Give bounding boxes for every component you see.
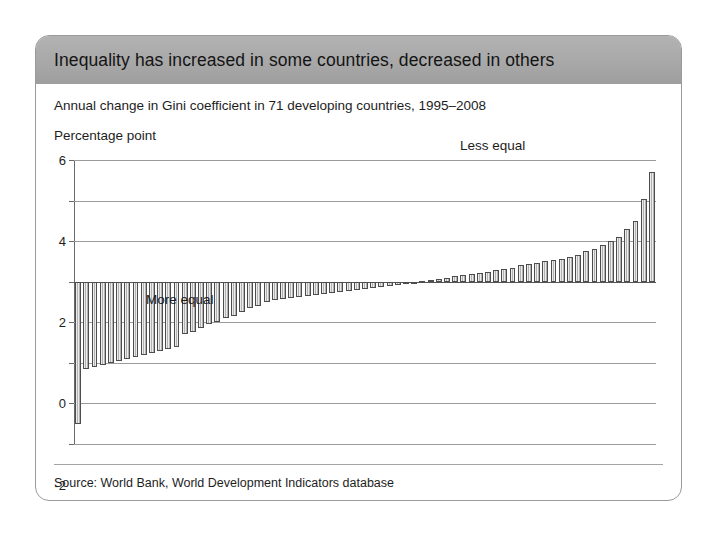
figure-title: Inequality has increased in some countri… [54, 50, 554, 71]
bar [329, 282, 335, 293]
bar [395, 282, 401, 285]
annotation-more-equal: More equal [146, 292, 214, 307]
bar [510, 268, 516, 282]
y-tick-label-4: 4 [59, 234, 66, 249]
bar [419, 281, 425, 283]
bar [567, 257, 573, 281]
bar [75, 282, 81, 424]
bar [575, 255, 581, 281]
bar [231, 282, 237, 316]
y-tick-label-6: 6 [59, 153, 66, 168]
bar [214, 282, 220, 323]
bar [305, 282, 311, 296]
bar [559, 259, 565, 281]
bar [518, 265, 524, 281]
y-tick-label-2: 2 [59, 315, 66, 330]
bar [378, 282, 384, 287]
bar [288, 282, 294, 298]
bar [477, 273, 483, 282]
bar [321, 282, 327, 294]
bar [313, 282, 319, 295]
annotation-less-equal: Less equal [460, 138, 525, 153]
bar [116, 282, 122, 361]
bar [485, 272, 491, 282]
bar [92, 282, 98, 367]
bar [493, 270, 499, 282]
figure-subtitle: Annual change in Gini coefficient in 71 … [54, 98, 486, 113]
bar [469, 274, 475, 282]
source-note: Source: World Bank, World Development In… [54, 476, 394, 490]
y-axis-unit-label: Percentage point [54, 128, 156, 143]
bar [182, 282, 188, 335]
bar [534, 263, 540, 281]
bar [551, 260, 557, 281]
bar [526, 264, 532, 281]
bar [649, 172, 655, 282]
gridline--8: -8 [74, 444, 656, 445]
bar [444, 278, 450, 282]
bar [624, 229, 630, 282]
figure-card: Inequality has increased in some countri… [35, 35, 682, 501]
y-tick-mark--8 [69, 444, 74, 445]
bar [411, 282, 417, 284]
bar [239, 282, 245, 312]
bar [592, 249, 598, 281]
bar [100, 282, 106, 365]
bar [362, 282, 368, 289]
bar [346, 282, 352, 291]
bar [403, 282, 409, 284]
bar [108, 282, 114, 363]
bar [460, 275, 466, 282]
bar [501, 269, 507, 282]
bar [633, 221, 639, 282]
y-tick-label-0: 0 [59, 396, 66, 411]
bar [428, 280, 434, 282]
bar [264, 282, 270, 302]
figure-body: Annual change in Gini coefficient in 71 … [36, 84, 681, 500]
bar [124, 282, 130, 359]
bar [436, 279, 442, 282]
bar [280, 282, 286, 299]
bar [616, 237, 622, 282]
bar [247, 282, 253, 308]
bar [296, 282, 302, 297]
bar [452, 276, 458, 282]
bar [600, 245, 606, 282]
bar [387, 282, 393, 286]
bar [370, 282, 376, 288]
bar [354, 282, 360, 290]
bar [608, 241, 614, 282]
bar [583, 251, 589, 281]
bar [272, 282, 278, 300]
bar [223, 282, 229, 319]
bar [337, 282, 343, 292]
bar [190, 282, 196, 333]
source-divider [54, 464, 663, 465]
bar [133, 282, 139, 357]
bar [542, 261, 548, 281]
bar [83, 282, 89, 369]
bar [255, 282, 261, 306]
figure-title-bar: Inequality has increased in some countri… [36, 36, 681, 84]
bar [641, 199, 647, 282]
